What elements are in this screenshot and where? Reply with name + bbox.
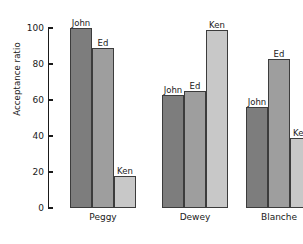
y-axis-label: Acceptance ratio [12, 24, 22, 134]
bar-series-label: Ed [98, 38, 109, 48]
bar: John [162, 95, 184, 208]
plot-area: 020406080100 JohnEdKenJohnEdKenJohnEdKen… [48, 8, 296, 220]
bar: Ed [184, 91, 206, 208]
x-category-label: Peggy [70, 212, 136, 222]
bar: Ed [268, 59, 290, 208]
bar-series-label: John [72, 18, 90, 28]
bar-group: JohnEdKen [246, 28, 303, 208]
bar-group: JohnEdKen [70, 28, 136, 208]
bar-series-label: Ed [274, 49, 285, 59]
y-tick-label: 100 [27, 23, 44, 33]
bar: Ken [290, 138, 303, 208]
y-tick-label: 80 [33, 59, 44, 69]
y-tick-label: 60 [33, 95, 44, 105]
y-tick-label: 0 [38, 203, 44, 213]
y-axis-spine [48, 28, 49, 208]
y-tick-mark [48, 63, 53, 64]
y-tick-mark [48, 135, 53, 136]
bar-group: JohnEdKen [162, 28, 228, 208]
bar-series-label: Ed [190, 81, 201, 91]
bar: Ed [92, 48, 114, 208]
x-category-label: Blanche [246, 212, 303, 222]
bar: John [246, 107, 268, 208]
y-tick-label: 40 [33, 131, 44, 141]
bar-series-label: Ken [117, 166, 133, 176]
bar: Ken [114, 176, 136, 208]
bar-series-label: Ken [293, 128, 303, 138]
bar-chart: Acceptance ratio 020406080100 JohnEdKenJ… [0, 0, 303, 244]
y-tick-mark [48, 99, 53, 100]
bar-series-label: Ken [209, 20, 225, 30]
x-category-label: Dewey [162, 212, 228, 222]
y-tick-mark [48, 27, 53, 28]
y-tick-mark [48, 171, 53, 172]
bar: John [70, 28, 92, 208]
bar-series-label: John [164, 85, 182, 95]
y-tick-label: 20 [33, 167, 44, 177]
y-tick-mark [48, 207, 53, 208]
bar-series-label: John [248, 97, 266, 107]
bar: Ken [206, 30, 228, 208]
